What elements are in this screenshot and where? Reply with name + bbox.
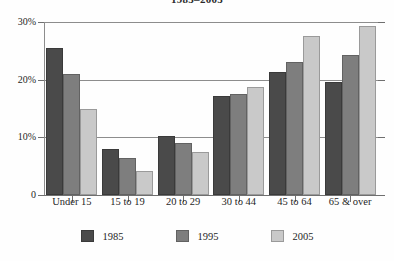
bar[interactable]	[213, 96, 230, 195]
bar[interactable]	[286, 62, 303, 195]
bar[interactable]	[230, 94, 247, 195]
legend-item-1985[interactable]: 1985	[81, 230, 124, 242]
bar[interactable]	[119, 158, 136, 195]
bar[interactable]	[175, 143, 192, 195]
legend-swatch-icon	[176, 230, 189, 242]
y-tick-left-30	[38, 22, 44, 23]
x-axis-category-label: 65 & over	[305, 196, 394, 207]
bar-group	[102, 22, 153, 195]
bar[interactable]	[102, 149, 119, 195]
bar-chart: 1985–2005 010%20%30% Under 1515 to 1920 …	[0, 0, 394, 261]
legend-label: 1985	[103, 231, 124, 242]
bar[interactable]	[342, 55, 359, 195]
y-axis-line	[44, 22, 45, 196]
bar[interactable]	[192, 152, 209, 195]
bar-group	[213, 22, 264, 195]
bar[interactable]	[136, 171, 153, 195]
legend-label: 1995	[198, 231, 219, 242]
bar[interactable]	[269, 72, 286, 195]
legend-item-2005[interactable]: 2005	[271, 230, 314, 242]
bar[interactable]	[63, 74, 80, 195]
bar-group	[46, 22, 97, 195]
legend-item-1995[interactable]: 1995	[176, 230, 219, 242]
bar-group	[158, 22, 209, 195]
legend-label: 2005	[293, 231, 314, 242]
bar[interactable]	[303, 36, 320, 195]
bar[interactable]	[359, 26, 376, 195]
bar[interactable]	[325, 82, 342, 195]
bar-group	[269, 22, 320, 195]
y-axis-tick-label: 30%	[0, 17, 36, 27]
bar-group	[325, 22, 376, 195]
y-axis-tick-label: 20%	[0, 75, 36, 85]
y-tick-left-10	[38, 137, 44, 138]
bar[interactable]	[46, 48, 63, 195]
bar[interactable]	[247, 87, 264, 195]
y-tick-right-10	[378, 137, 385, 138]
chart-title: 1985–2005	[0, 0, 394, 5]
y-tick-right-20	[378, 80, 385, 81]
bar[interactable]	[80, 109, 97, 196]
legend-swatch-icon	[271, 230, 284, 242]
y-tick-left-20	[38, 80, 44, 81]
legend-swatch-icon	[81, 230, 94, 242]
y-axis-tick-label: 10%	[0, 132, 36, 142]
y-tick-right-30	[378, 22, 385, 23]
bar[interactable]	[158, 136, 175, 195]
chart-legend: 198519952005	[0, 230, 394, 242]
plot-area	[44, 22, 378, 195]
